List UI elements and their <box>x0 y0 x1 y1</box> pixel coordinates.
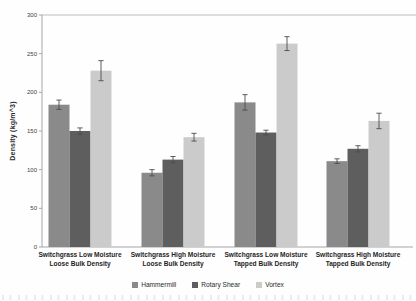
x-category-label: Switchgrass Low MoistureTapped Bulk Dens… <box>214 251 318 268</box>
x-category-label-line: Tapped Bulk Density <box>306 260 410 269</box>
bar-rotary-shear <box>348 149 369 247</box>
x-category-label-line: Switchgrass Low Moisture <box>214 251 318 260</box>
x-category-label: Switchgrass Low MoistureLoose Bulk Densi… <box>28 251 132 268</box>
x-category-label: Switchgrass High MoistureLoose Bulk Dens… <box>121 251 225 268</box>
y-tick-label: 0 <box>34 244 38 250</box>
x-category-label: Switchgrass High MoistureTapped Bulk Den… <box>306 251 410 268</box>
legend-label: Rotary Shear <box>201 281 240 288</box>
bar-vortex <box>369 121 390 247</box>
bar-vortex <box>184 137 205 247</box>
y-tick-label: 50 <box>30 205 37 211</box>
x-category-label-line: Loose Bulk Density <box>121 260 225 269</box>
bar-rotary-shear <box>256 133 277 247</box>
bar-hammermill <box>327 161 348 247</box>
y-tick-label: 150 <box>27 128 38 134</box>
y-tick-label: 250 <box>27 51 38 57</box>
legend-swatch-icon <box>192 282 198 288</box>
y-tick-label: 200 <box>27 89 38 95</box>
bar-hammermill <box>49 105 70 247</box>
y-axis-title: Density (kg/m^3) <box>9 15 19 247</box>
x-category-label-line: Switchgrass High Moisture <box>306 251 410 260</box>
cropped-caption-artifact <box>2 295 414 300</box>
legend-item: Hammermill <box>132 281 176 288</box>
x-category-label-line: Switchgrass High Moisture <box>121 251 225 260</box>
x-category-label-line: Loose Bulk Density <box>28 260 132 269</box>
bar-rotary-shear <box>163 160 184 247</box>
x-category-label-line: Switchgrass Low Moisture <box>28 251 132 260</box>
legend-swatch-icon <box>256 282 262 288</box>
x-category-label-line: Tapped Bulk Density <box>214 260 318 269</box>
y-tick-label: 100 <box>27 167 38 173</box>
bar-vortex <box>91 71 112 247</box>
legend-item: Vortex <box>256 281 284 288</box>
bar-vortex <box>277 44 298 247</box>
bar-rotary-shear <box>70 131 91 247</box>
legend-item: Rotary Shear <box>192 281 240 288</box>
legend-swatch-icon <box>132 282 138 288</box>
legend: HammermillRotary ShearVortex <box>0 281 416 288</box>
y-tick-label: 300 <box>27 12 38 18</box>
bar-hammermill <box>142 173 163 247</box>
bar-chart-figure: 050100150200250300 Density (kg/m^3) Swit… <box>0 0 416 301</box>
bar-hammermill <box>235 102 256 247</box>
legend-label: Hammermill <box>141 281 176 288</box>
legend-label: Vortex <box>265 281 284 288</box>
